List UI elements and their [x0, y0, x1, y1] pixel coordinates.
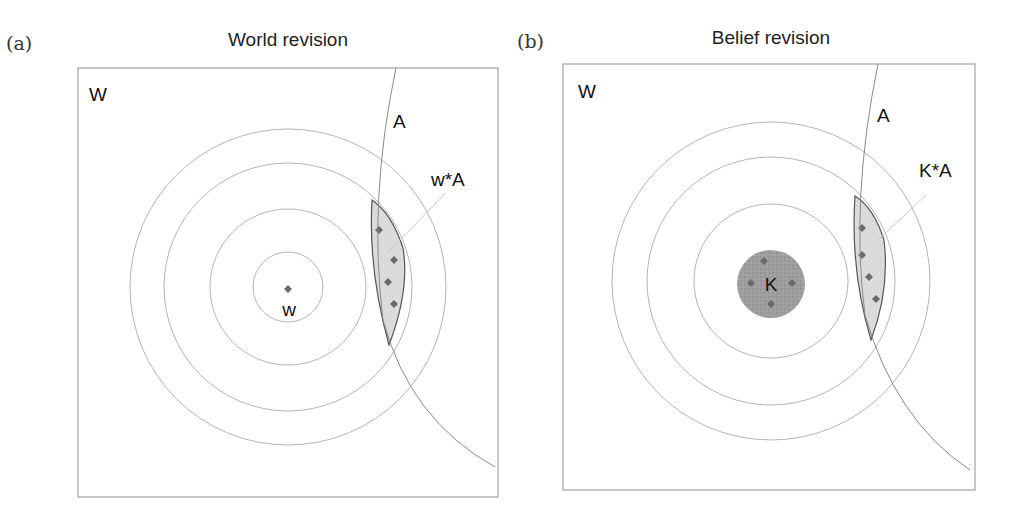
- universe-label-a: W: [89, 84, 107, 105]
- result-label-b: K*A: [919, 160, 952, 181]
- revision-result-region-b: [854, 196, 885, 340]
- panel-tag-a: (a): [6, 32, 32, 54]
- universe-label-b: W: [578, 81, 596, 102]
- panel-title-b: Belief revision: [712, 27, 830, 48]
- panel-title-a: World revision: [228, 29, 348, 50]
- panel-world-revision: (a) World revision W A w*A w: [6, 29, 498, 497]
- panel-tag-b: (b): [517, 30, 544, 52]
- center-label-a: w: [281, 299, 296, 320]
- panel-belief-revision: (b) Belief revision W K A K*A: [517, 27, 975, 490]
- leader-line-a: [388, 193, 446, 252]
- revision-result-region-a: [371, 200, 404, 345]
- actual-world-point-icon: [284, 285, 292, 293]
- universe-frame-a: [78, 68, 498, 497]
- revision-diagram: (a) World revision W A w*A w (b) Belief …: [0, 0, 1016, 515]
- proposition-label-a: A: [393, 111, 406, 132]
- proposition-label-b: A: [877, 105, 890, 126]
- center-label-b: K: [765, 274, 778, 295]
- result-label-a: w*A: [430, 169, 465, 190]
- leader-line-b: [878, 195, 926, 240]
